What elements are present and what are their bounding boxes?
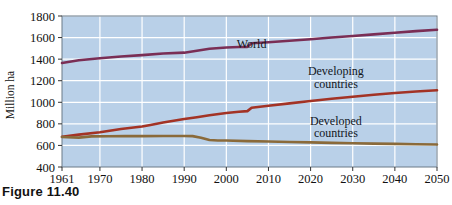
y-tick-label: 800 [36, 117, 55, 131]
x-tick-label: 2020 [298, 172, 323, 186]
y-tick-label: 1800 [30, 10, 55, 24]
series-label: countries [314, 126, 358, 140]
x-tick-label: 2010 [256, 172, 281, 186]
y-axis-title: Million ha [4, 71, 16, 119]
series-label: countries [314, 77, 358, 91]
y-tick-label: 1600 [30, 31, 55, 45]
y-axis-tick-labels: 40060080010001200140016001800 [30, 10, 55, 175]
series-label: World [237, 37, 267, 51]
x-tick-label: 2050 [425, 172, 450, 186]
figure-caption: Figure 11.40 [2, 184, 80, 199]
y-tick-label: 1000 [30, 96, 55, 110]
line-chart: 40060080010001200140016001800 1961197019… [0, 0, 452, 205]
x-tick-label: 1990 [172, 172, 197, 186]
x-tick-label: 2030 [340, 172, 365, 186]
x-tick-label: 1970 [87, 172, 112, 186]
x-axis-tick-labels: 1961197019801990200020102020203020402050 [50, 172, 450, 186]
y-tick-label: 1400 [30, 53, 55, 67]
y-tick-label: 600 [36, 139, 55, 153]
x-tick-label: 1980 [130, 172, 155, 186]
y-axis-ticks [58, 16, 62, 167]
figure-container: 40060080010001200140016001800 1961197019… [0, 0, 452, 205]
y-tick-label: 1200 [30, 74, 55, 88]
x-tick-label: 2040 [382, 172, 407, 186]
x-tick-label: 2000 [214, 172, 239, 186]
x-axis-ticks [62, 167, 437, 171]
